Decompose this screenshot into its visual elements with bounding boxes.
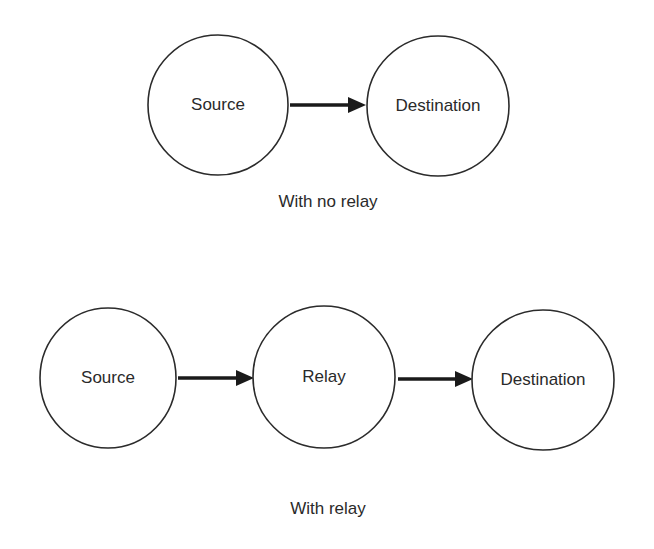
relay-comparison-diagram: Source Destination With no relay Source …: [0, 0, 654, 549]
edge-relay-to-destination: [398, 371, 473, 387]
arrowhead-icon: [236, 370, 254, 386]
caption-with-relay: With relay: [290, 499, 366, 518]
node-relay: Relay: [253, 306, 395, 448]
arrowhead-icon: [455, 371, 473, 387]
node-source: Source: [148, 35, 288, 175]
node-destination-label: Destination: [395, 96, 480, 115]
node-destination-relay: Destination: [472, 310, 614, 450]
diagram-with-relay: Source Relay Destination With relay: [40, 306, 614, 518]
node-source-relay-label: Source: [81, 368, 135, 387]
node-source-relay: Source: [40, 308, 176, 448]
node-destination: Destination: [367, 36, 509, 176]
arrowhead-icon: [348, 97, 366, 113]
caption-no-relay: With no relay: [278, 192, 378, 211]
edge-source-to-destination: [290, 97, 366, 113]
diagram-no-relay: Source Destination With no relay: [148, 35, 509, 211]
node-relay-label: Relay: [302, 367, 346, 386]
node-destination-relay-label: Destination: [500, 370, 585, 389]
edge-source-to-relay: [178, 370, 254, 386]
node-source-label: Source: [191, 95, 245, 114]
